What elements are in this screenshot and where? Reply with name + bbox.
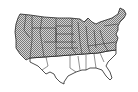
us-map-svg	[0, 0, 138, 92]
us-map	[0, 0, 138, 92]
